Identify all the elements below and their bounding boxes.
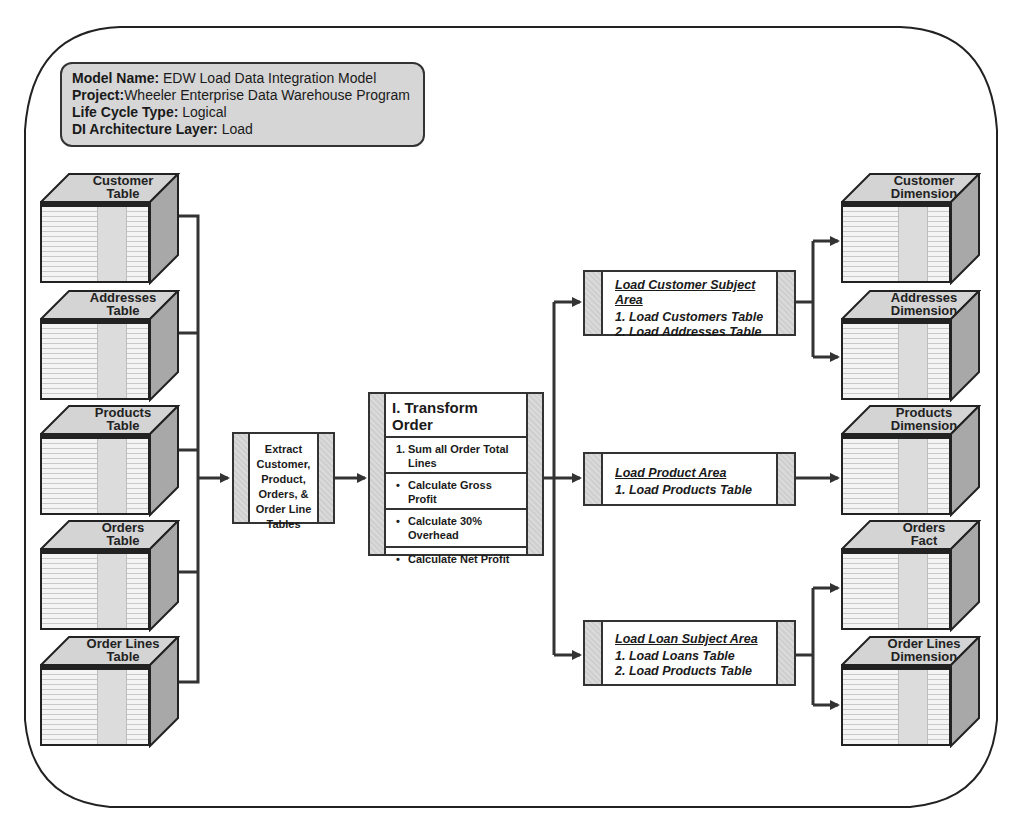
source-cube-order-lines-table: Order LinesTable [40,636,180,748]
table-preview [40,201,150,283]
transform-title: I. Transform Order [386,394,526,438]
table-preview [841,201,951,283]
transform-step: 1.Sum all Order Total Lines [386,438,526,474]
cube-title: CustomerTable [68,174,178,200]
table-preview [841,318,951,400]
cube-title: CustomerDimension [869,174,979,200]
table-preview [841,433,951,515]
source-cube-addresses-table: AddressesTable [40,290,180,402]
load-title: Load Loan Subject Area [615,632,776,647]
project-row: Project:Wheeler Enterprise Data Warehous… [72,87,413,104]
target-cube-products-dimension: ProductsDimension [841,405,981,517]
target-cube-customer-dimension: CustomerDimension [841,173,981,285]
cube-title: Order LinesTable [68,637,178,663]
load-item: 2. Load Products Table [615,664,776,679]
cube-title: AddressesDimension [869,291,979,317]
transform-step: •Calculate Net Profit [386,548,526,570]
load-title: Load Product Area [615,466,776,481]
model-name-row: Model Name: EDW Load Data Integration Mo… [72,70,413,87]
table-preview [841,548,951,630]
cube-title: ProductsDimension [869,406,979,432]
layer-row: DI Architecture Layer: Load [72,121,413,138]
load-loan-subject-area: Load Loan Subject Area 1. Load Loans Tab… [583,620,796,686]
table-preview [40,548,150,630]
source-cube-customer-table: CustomerTable [40,173,180,285]
load-customer-subject-area: Load Customer Subject Area 1. Load Custo… [583,270,796,336]
transform-process: I. Transform Order 1.Sum all Order Total… [368,392,544,556]
target-cube-orders-fact: OrdersFact [841,520,981,632]
model-info-box: Model Name: EDW Load Data Integration Mo… [60,62,425,147]
cube-title: Order LinesDimension [869,637,979,663]
transform-step: •Calculate Gross Profit [386,474,526,510]
transform-step: •Calculate 30% Overhead [386,510,526,548]
load-item: 2. Load Addresses Table [615,325,776,340]
life-cycle-row: Life Cycle Type: Logical [72,104,413,121]
table-preview [40,433,150,515]
source-cube-products-table: ProductsTable [40,405,180,517]
load-title: Load Customer Subject Area [615,278,776,308]
cube-title: AddressesTable [68,291,178,317]
cube-title: OrdersFact [869,521,979,547]
load-item: 1. Load Loans Table [615,649,776,664]
load-item: 1. Load Products Table [615,483,776,498]
table-preview [40,318,150,400]
cube-title: OrdersTable [68,521,178,547]
extract-process: Extract Customer, Product, Orders, & Ord… [232,432,335,524]
cube-title: ProductsTable [68,406,178,432]
target-cube-order-lines-dimension: Order LinesDimension [841,636,981,748]
source-cube-orders-table: OrdersTable [40,520,180,632]
load-item: 1. Load Customers Table [615,310,776,325]
table-preview [40,664,150,746]
load-product-area: Load Product Area 1. Load Products Table [583,452,796,506]
target-cube-addresses-dimension: AddressesDimension [841,290,981,402]
table-preview [841,664,951,746]
extract-label: Extract Customer, Product, Orders, & Ord… [250,442,317,532]
